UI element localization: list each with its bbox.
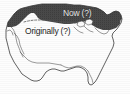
us-map-svg: [0, 0, 130, 94]
current-range-fill: [2, 0, 130, 30]
map-figure: Now (?) Originally (?): [0, 0, 130, 94]
